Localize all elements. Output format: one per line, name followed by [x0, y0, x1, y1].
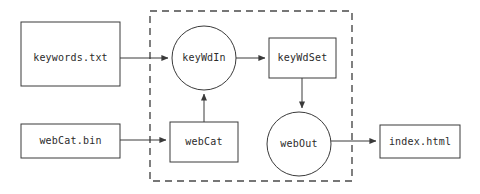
- key-wd-set-label: keyWdSet: [278, 52, 328, 63]
- node-keywords-txt[interactable]: keywords.txt: [21, 22, 120, 86]
- web-cat-label: webCat: [185, 136, 222, 147]
- node-key-wd-set[interactable]: keyWdSet: [269, 38, 336, 78]
- node-web-out[interactable]: webOut: [267, 112, 331, 176]
- web-out-label: webOut: [280, 138, 317, 149]
- node-key-wd-in[interactable]: keyWdIn: [172, 26, 236, 90]
- edge-layer: [120, 58, 376, 141]
- index-html-label: index.html: [389, 136, 451, 147]
- node-web-cat[interactable]: webCat: [170, 122, 238, 162]
- diagram-canvas: keywords.txt keyWdIn keyWdSet webCat.bin…: [0, 0, 480, 194]
- web-cat-bin-label: webCat.bin: [39, 135, 101, 146]
- node-index-html[interactable]: index.html: [380, 125, 460, 158]
- node-web-cat-bin[interactable]: webCat.bin: [21, 124, 120, 158]
- dataflow-diagram: keywords.txt keyWdIn keyWdSet webCat.bin…: [0, 0, 480, 194]
- keywords-txt-label: keywords.txt: [33, 52, 108, 63]
- key-wd-in-label: keyWdIn: [182, 52, 226, 63]
